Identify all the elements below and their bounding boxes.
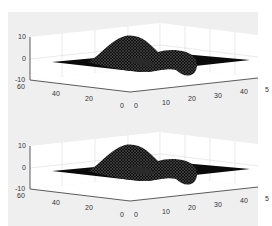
z-tick: 0: [22, 55, 26, 62]
x-tick: 40: [240, 197, 248, 204]
z-tick: -10: [15, 76, 25, 83]
x-tick: 5: [265, 195, 269, 202]
x-tick: 20: [188, 95, 196, 102]
y-tick: 40: [52, 199, 60, 206]
y-tick: 60: [17, 83, 25, 90]
z-tick: -10: [15, 185, 25, 192]
x-tick: 20: [188, 204, 196, 211]
x-tick: 5: [265, 86, 269, 93]
z-tick: 0: [22, 164, 26, 171]
x-tick: 0: [134, 211, 138, 218]
y-tick: 0: [120, 211, 124, 218]
y-tick: 20: [85, 204, 93, 211]
z-tick: 10: [18, 142, 26, 149]
x-tick: 30: [214, 92, 222, 99]
surface-plot-bottom: 10 0 -10 60 40 20 0 0 10 20 30 40 5: [0, 109, 272, 218]
z-tick: 10: [18, 33, 26, 40]
y-tick: 60: [17, 192, 25, 199]
x-tick: 0: [134, 102, 138, 109]
surface-plot-top: 10 0 -10 60 40 20 0 0 10 20 30 40 5: [0, 0, 272, 109]
x-tick: 30: [214, 201, 222, 208]
y-tick: 20: [85, 95, 93, 102]
x-tick: 10: [162, 208, 170, 215]
x-tick: 40: [240, 88, 248, 95]
x-tick: 10: [162, 99, 170, 106]
y-tick: 0: [120, 102, 124, 109]
y-tick: 40: [52, 90, 60, 97]
